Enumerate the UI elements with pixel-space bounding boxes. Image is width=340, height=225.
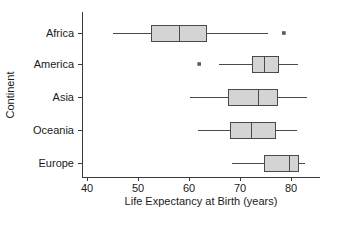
y-tick-label-europe: Europe <box>39 157 74 169</box>
box-iqr <box>229 89 277 105</box>
y-axis-title: Continent <box>4 71 16 118</box>
x-axis-ticks: 4050607080 <box>81 177 297 194</box>
x-tick-label: 80 <box>285 182 297 194</box>
outlier-point <box>282 31 286 35</box>
y-tick-label-oceania: Oceania <box>33 124 75 136</box>
box-iqr <box>231 122 275 138</box>
x-tick-label: 40 <box>81 182 93 194</box>
box-europe <box>232 155 305 171</box>
box-asia <box>190 89 307 105</box>
outlier-point <box>197 62 201 66</box>
x-tick-label: 50 <box>132 182 144 194</box>
boxplot-canvas: 4050607080 AfricaAmericaAsiaOceaniaEurop… <box>0 0 340 225</box>
box-oceania <box>198 122 297 138</box>
box-series <box>113 25 307 171</box>
boxplot-figure: 4050607080 AfricaAmericaAsiaOceaniaEurop… <box>0 0 340 225</box>
box-africa <box>113 25 286 41</box>
box-america <box>197 56 298 72</box>
y-axis-ticks: AfricaAmericaAsiaOceaniaEurope <box>33 27 82 169</box>
x-axis-title: Life Expectancy at Birth (years) <box>125 195 278 207</box>
y-tick-label-africa: Africa <box>46 27 75 39</box>
x-tick-label: 60 <box>183 182 195 194</box>
box-iqr <box>152 25 207 41</box>
y-tick-label-asia: Asia <box>53 91 75 103</box>
x-tick-label: 70 <box>234 182 246 194</box>
box-iqr <box>265 155 298 171</box>
y-tick-label-america: America <box>34 58 75 70</box>
